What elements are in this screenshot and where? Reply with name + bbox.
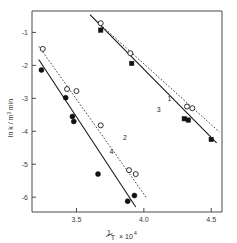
arrhenius-plot: 3.54.04.5-1-2-3-4-5-6 1234 1T× 104ln k /…: [0, 0, 237, 243]
data-point: [98, 21, 103, 26]
data-point: [127, 168, 132, 173]
y-tick-label: -4: [22, 128, 28, 135]
data-point: [133, 172, 138, 177]
y-axis-title: ln k / m3 min: [7, 99, 14, 137]
series-label-2: 2: [123, 134, 127, 141]
series-line-4: [39, 59, 136, 207]
data-point: [184, 104, 189, 109]
x-title-denominator: T: [111, 234, 116, 241]
series-label-3: 3: [157, 106, 161, 113]
series-labels: 1234: [110, 95, 172, 155]
y-tick-label: -1: [22, 29, 28, 36]
data-point: [125, 199, 130, 204]
axis-tick-labels: 3.54.04.5-1-2-3-4-5-6: [22, 29, 216, 223]
data-point: [209, 137, 213, 141]
axis-box: [32, 11, 222, 212]
data-point: [128, 51, 133, 56]
data-point: [65, 87, 70, 92]
data-point: [40, 46, 45, 51]
data-point: [96, 172, 101, 177]
series-label-4: 4: [110, 148, 114, 155]
x-tick-label: 4.0: [139, 216, 149, 223]
y-tick-label: -3: [22, 95, 28, 102]
x-title-times: × 10: [119, 233, 133, 240]
x-axis-title: 1T× 104: [106, 229, 137, 241]
data-point: [132, 193, 137, 198]
data-point: [190, 106, 195, 111]
data-point: [130, 61, 134, 65]
y-title-text: ln k / m3 min: [7, 99, 14, 137]
series-label-1: 1: [167, 95, 171, 102]
data-point: [182, 117, 186, 121]
data-point: [71, 119, 76, 124]
data-point: [98, 123, 103, 128]
data-point: [99, 28, 103, 32]
data-point: [39, 67, 44, 72]
data-point: [70, 114, 75, 119]
series-line-3: [90, 15, 217, 143]
x-title-exponent: 4: [134, 230, 137, 236]
chart-figure: 3.54.04.5-1-2-3-4-5-6 1234 1T× 104ln k /…: [0, 0, 237, 243]
plot-frame: [32, 11, 222, 212]
x-tick-label: 4.5: [206, 216, 216, 223]
series-line-2: [39, 46, 147, 198]
x-tick-label: 3.5: [72, 216, 82, 223]
series-line-1: [93, 18, 220, 132]
data-point: [63, 95, 68, 100]
data-point: [186, 118, 190, 122]
y-tick-label: -6: [22, 194, 28, 201]
y-tick-label: -2: [22, 62, 28, 69]
data-point: [74, 89, 79, 94]
y-tick-label: -5: [22, 161, 28, 168]
